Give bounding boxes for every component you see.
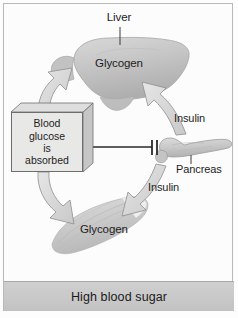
footer-band: High blood sugar xyxy=(4,281,234,311)
footer-caption: High blood sugar xyxy=(71,290,167,304)
label-insulin-lower: Insulin xyxy=(148,181,179,193)
label-liver: Liver xyxy=(0,11,238,23)
blood-glucose-box-face: Blood glucose is absorbed xyxy=(11,112,83,172)
arrow-insulin-to-liver xyxy=(142,82,186,135)
liver-organ xyxy=(51,37,189,110)
box-line-2: glucose xyxy=(29,130,65,142)
arrow-glucose-to-muscle xyxy=(38,172,74,224)
pancreas-organ xyxy=(156,138,232,163)
label-insulin-upper: Insulin xyxy=(174,112,205,124)
box-line-1: Blood xyxy=(34,117,61,129)
inhibition-connector xyxy=(90,140,157,155)
label-glycogen-muscle: Glycogen xyxy=(80,223,128,235)
box-line-3: is xyxy=(43,142,51,154)
blood-glucose-box: Blood glucose is absorbed xyxy=(11,112,83,172)
label-glycogen-liver: Glycogen xyxy=(0,57,238,69)
insulin-regulation-diagram: Liver Glycogen Insulin Pancreas Insulin … xyxy=(0,0,238,318)
label-pancreas: Pancreas xyxy=(176,163,222,175)
box-line-4: absorbed xyxy=(25,154,69,166)
